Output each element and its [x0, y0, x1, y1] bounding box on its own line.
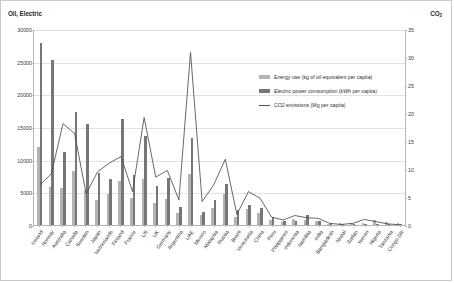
- bar-category-group: [243, 30, 255, 225]
- bar: [86, 124, 89, 225]
- y-axis-right-tick-mark: [405, 114, 407, 115]
- x-axis-category: Bangladesh: [324, 227, 336, 282]
- y-axis-left-tick-label: 15000: [17, 125, 32, 131]
- y-axis-left-tick-label: 25000: [17, 60, 32, 66]
- x-axis-tick-mark: [295, 225, 296, 227]
- x-axis-category: Venezuela: [243, 227, 255, 282]
- bar-category-group: [127, 30, 139, 225]
- left-axis-title: Oil, Electric: [8, 10, 42, 17]
- bar-category-group: [150, 30, 162, 225]
- bar-category-group: [69, 30, 81, 225]
- x-axis-category: Russia: [220, 227, 232, 282]
- bar: [98, 173, 101, 225]
- x-axis-category: Nepal: [336, 227, 348, 282]
- x-axis-category: Philippines: [278, 227, 290, 282]
- x-axis-category: Iceland: [33, 227, 45, 282]
- bar-category-group: [185, 30, 197, 225]
- bar: [306, 215, 309, 225]
- x-axis-category: China: [254, 227, 266, 282]
- y-axis-right-tick-label: 25: [408, 83, 414, 89]
- bar-category-group: [301, 30, 313, 225]
- legend-item[interactable]: Energy use (kg of oil equivalent per cap…: [259, 74, 377, 80]
- x-axis-tick-mark: [225, 225, 226, 227]
- chart-container: Oil, Electric CO2 0500010000150002000025…: [0, 0, 452, 281]
- x-axis-tick-mark: [377, 225, 378, 227]
- x-axis-tick-mark: [214, 225, 215, 227]
- bar-group: [34, 30, 405, 225]
- y-axis-right-tick-label: 15: [408, 139, 414, 145]
- x-axis-labels: IcelandNorwayAustraliaCanadaSwedenJapanN…: [33, 227, 406, 282]
- x-axis-tick-mark: [167, 225, 168, 227]
- y-axis-right-tick-mark: [405, 142, 407, 143]
- x-axis-tick-mark: [62, 225, 63, 227]
- bar: [179, 207, 182, 225]
- legend-item[interactable]: Electric power consumption (kWh per capi…: [259, 88, 377, 94]
- bar-category-group: [277, 30, 289, 225]
- bar: [121, 119, 124, 225]
- x-axis-tick-mark: [97, 225, 98, 227]
- x-axis-category: Netherlands: [103, 227, 115, 282]
- bar-category-group: [370, 30, 382, 225]
- y-axis-right-tick-label: 0: [408, 223, 411, 229]
- bar: [191, 138, 194, 225]
- bar: [214, 200, 217, 225]
- x-axis-tick-mark: [109, 225, 110, 227]
- bar: [167, 178, 170, 225]
- x-axis-category: Canada: [68, 227, 80, 282]
- bar: [51, 60, 54, 225]
- x-axis-tick-mark: [354, 225, 355, 227]
- bar: [75, 112, 78, 225]
- y-axis-right-tick-label: 30: [408, 55, 414, 61]
- bar-category-group: [335, 30, 347, 225]
- y-axis-right-tick-mark: [405, 198, 407, 199]
- x-axis-tick-mark: [249, 225, 250, 227]
- bar-category-group: [46, 30, 58, 225]
- chart-legend: Energy use (kg of oil equivalent per cap…: [259, 74, 377, 108]
- x-axis-category: Yemen: [359, 227, 371, 282]
- y-axis-right-tick-mark: [405, 30, 407, 31]
- x-axis-tick-mark: [85, 225, 86, 227]
- bar: [133, 175, 136, 225]
- y-axis-right-tick-mark: [405, 170, 407, 171]
- y-axis-right-tick-label: 35: [408, 27, 414, 33]
- x-axis-category: Mexico: [196, 227, 208, 282]
- bar-category-group: [220, 30, 232, 225]
- bar: [202, 212, 205, 225]
- bar-swatch-light-icon: [259, 75, 270, 78]
- x-axis-tick-mark: [132, 225, 133, 227]
- bar: [272, 217, 275, 225]
- x-axis-category: Nigeria: [371, 227, 383, 282]
- y-axis-right-tick-mark: [405, 58, 407, 59]
- x-axis-tick-mark: [400, 225, 401, 227]
- legend-item[interactable]: CO2 emissions (Mg per capita): [259, 102, 377, 108]
- x-axis-tick-mark: [50, 225, 51, 227]
- x-axis-tick-mark: [179, 225, 180, 227]
- y-axis-right-tick-label: 20: [408, 111, 414, 117]
- bar: [109, 179, 112, 225]
- right-axis-title-subscript: 2: [440, 13, 442, 18]
- x-axis-tick-mark: [39, 225, 40, 227]
- bar-category-group: [115, 30, 127, 225]
- y-axis-left-tick-label: 5000: [20, 190, 32, 196]
- bar-category-group: [80, 30, 92, 225]
- x-axis-tick-mark: [190, 225, 191, 227]
- bar: [144, 136, 147, 226]
- x-axis-tick-label: UK: [151, 229, 160, 238]
- x-axis-tick-mark: [389, 225, 390, 227]
- y-axis-right-tick-mark: [405, 86, 407, 87]
- x-axis-category: Tanzania: [383, 227, 395, 282]
- bar-category-group: [359, 30, 371, 225]
- x-axis-category: Sudan: [348, 227, 360, 282]
- bar-swatch-dark-icon: [259, 89, 270, 92]
- y-axis-left-tick-label: 20000: [17, 92, 32, 98]
- line-swatch-icon: [259, 105, 270, 106]
- bar-category-group: [324, 30, 336, 225]
- x-axis-tick-mark: [307, 225, 308, 227]
- legend-label: Energy use (kg of oil equivalent per cap…: [274, 74, 372, 80]
- x-axis-tick-label: US: [140, 229, 149, 238]
- y-axis-left-tick-label: 30000: [17, 27, 32, 33]
- x-axis-tick-mark: [272, 225, 273, 227]
- x-axis-category: Peru: [266, 227, 278, 282]
- bar-category-group: [347, 30, 359, 225]
- bar-category-group: [138, 30, 150, 225]
